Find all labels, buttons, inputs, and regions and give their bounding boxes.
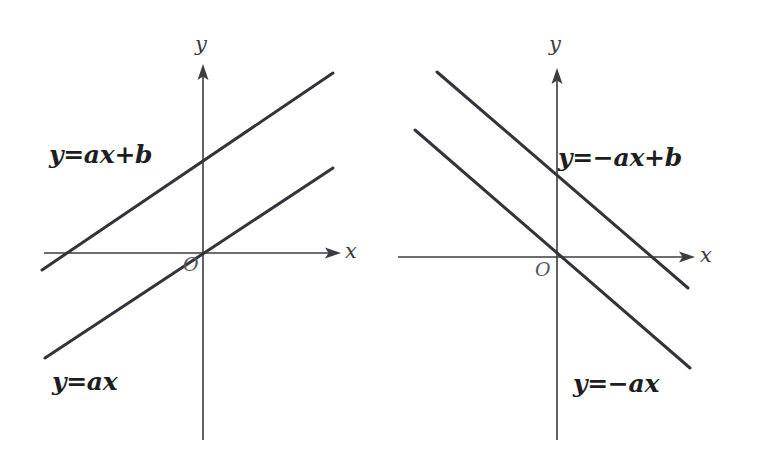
right-label-y-equals-minus-ax-plus-b: y=−ax+b [558,145,682,170]
graph-panel-positive-slope: y x O y=ax+b y=ax [0,0,383,457]
left-label-y-equals-ax-plus-b: y=ax+b [49,142,152,167]
left-x-axis-label: x [345,241,357,262]
right-origin-label: O [535,260,551,279]
left-label-y-equals-ax: y=ax [52,369,117,394]
graph-panel-negative-slope: y x O y=−ax+b y=−ax [383,0,766,457]
figure-canvas: y x O y=ax+b y=ax y x O y=−ax+b y=−ax [0,0,766,457]
left-origin-label: O [183,255,199,274]
right-label-y-equals-minus-ax: y=−ax [573,371,659,396]
right-y-axis-label: y [549,34,561,55]
right-x-axis-label: x [700,245,712,266]
left-line-y-equals-ax-plus-b [42,73,333,270]
left-y-axis-label: y [195,34,207,55]
